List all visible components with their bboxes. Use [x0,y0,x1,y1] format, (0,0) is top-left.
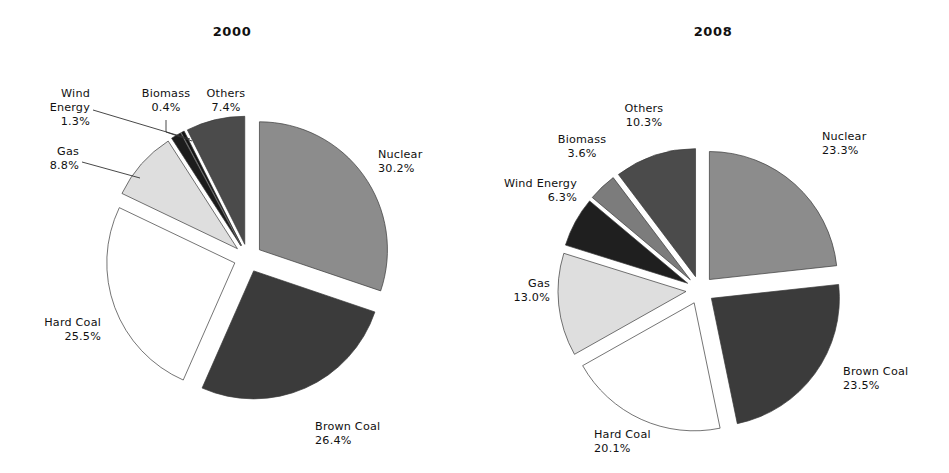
slice-label-value: 30.2% [378,162,415,175]
slice-label-value: 8.8% [50,159,79,172]
charts-layer: Nuclear30.2%Brown Coal26.4%Hard Coal25.5… [44,24,908,455]
slice-label-name: Hard Coal [44,316,101,329]
pie-chart-2008: Nuclear23.3%Brown Coal23.5%Hard Coal20.1… [504,102,908,455]
pie-slice-nuclear[interactable] [709,152,836,280]
slice-label-value: 23.5% [843,379,880,392]
figure-root: Nuclear30.2%Brown Coal26.4%Hard Coal25.5… [0,0,949,473]
slice-label-hard-coal: Hard Coal20.1% [594,428,651,455]
slice-label-name: Energy [50,101,91,114]
slice-label-gas: Gas13.0% [513,277,550,304]
slice-label-hard-coal: Hard Coal25.5% [44,316,101,343]
slice-label-nuclear: Nuclear23.3% [822,130,867,157]
leader-line-wind-energy [93,110,190,139]
slice-label-biomass: Biomass0.4% [142,87,190,114]
slice-label-name: Biomass [142,87,190,100]
slice-label-value: 13.0% [513,291,550,304]
slice-label-value: 6.3% [548,191,577,204]
slice-label-name: Hard Coal [594,428,651,441]
slice-label-wind-energy: Wind Energy6.3% [504,177,577,204]
slice-label-value: 3.6% [567,147,596,160]
slice-label-value: 7.4% [211,101,240,114]
slice-label-biomass: Biomass3.6% [558,133,606,160]
slice-label-name: Gas [57,145,79,158]
slice-label-name: Nuclear [378,148,423,161]
slice-label-name: Others [625,102,664,115]
pie-slice-brown-coal[interactable] [202,271,375,399]
slice-label-value: 1.3% [61,115,90,128]
slice-label-name: Brown Coal [315,420,380,433]
chart-title-right: 2008 [694,24,733,39]
slice-label-gas: Gas8.8% [50,145,79,172]
leader-line-gas [82,162,140,178]
slice-label-brown-coal: Brown Coal23.5% [843,365,908,392]
slice-label-brown-coal: Brown Coal26.4% [315,420,380,447]
chart-title-left: 2000 [213,24,252,39]
slice-label-value: 10.3% [626,116,663,129]
slice-label-others: Others7.4% [207,87,246,114]
slice-label-others: Others10.3% [625,102,664,129]
slice-label-name: Others [207,87,246,100]
slice-label-name: Wind [61,87,90,100]
slice-label-name: Brown Coal [843,365,908,378]
slice-label-name: Gas [528,277,550,290]
slice-label-value: 20.1% [594,442,631,455]
slice-label-wind-energy: WindEnergy1.3% [50,87,91,128]
slice-label-name: Wind Energy [504,177,577,190]
pie-chart-2000: Nuclear30.2%Brown Coal26.4%Hard Coal25.5… [44,87,422,447]
pie-slice-brown-coal[interactable] [711,284,839,423]
slice-label-name: Nuclear [822,130,867,143]
slice-label-nuclear: Nuclear30.2% [378,148,423,175]
slice-label-name: Biomass [558,133,606,146]
pie-chart-canvas: Nuclear30.2%Brown Coal26.4%Hard Coal25.5… [0,0,949,473]
slice-label-value: 25.5% [64,330,101,343]
pie-slice-nuclear[interactable] [259,122,387,291]
slice-label-value: 23.3% [822,144,859,157]
slice-label-value: 26.4% [315,434,352,447]
slice-label-value: 0.4% [151,101,180,114]
